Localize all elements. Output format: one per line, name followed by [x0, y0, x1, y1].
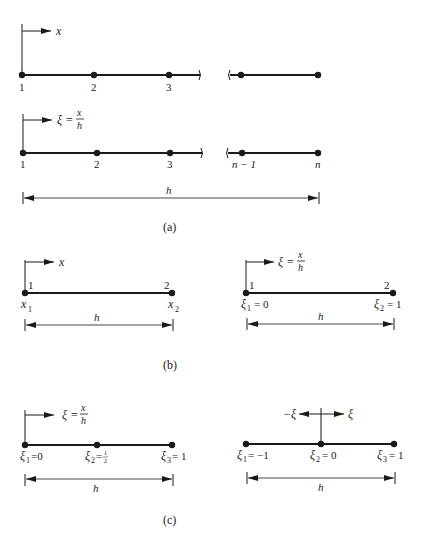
- node-label: 2: [164, 279, 170, 291]
- axis-pos-label: ξ: [348, 407, 354, 421]
- axis-neg-label: −ξ: [283, 407, 297, 421]
- node-coordinate-value: =0: [31, 450, 43, 462]
- fraction-denominator: 2: [104, 458, 107, 464]
- node-dot: [20, 150, 26, 156]
- node-coordinate-value: = 1: [172, 450, 186, 462]
- node-coordinate-sub: 1: [26, 456, 30, 465]
- node-dot: [315, 150, 321, 156]
- panel-caption-b: (b): [163, 358, 177, 372]
- fraction-denominator: h: [298, 262, 303, 273]
- node-coordinate-sub: 1: [243, 455, 247, 464]
- node-coordinate-value: =: [96, 450, 102, 462]
- node-label: 3: [166, 81, 172, 93]
- finite-element-mesh-diagram: x 1 2 3 ξ = x h 1 2 3 n − 1 n: [0, 0, 429, 538]
- node-dot: [318, 441, 324, 447]
- node-label: 2: [91, 81, 97, 93]
- fraction-numerator: x: [76, 107, 82, 118]
- fraction-denominator: h: [77, 120, 82, 131]
- node-dot: [94, 150, 100, 156]
- panel-c-right-element: −ξ ξ ξ 1 = −1 ξ 2 = 0 ξ 3 = 1 h: [237, 407, 403, 493]
- node-dot: [91, 72, 97, 78]
- dimension-label: h: [166, 184, 172, 196]
- node-coordinate-sub: 2: [91, 456, 95, 465]
- node-dot: [22, 442, 28, 448]
- node-label: 1: [20, 158, 26, 170]
- node-coordinate: x: [20, 297, 27, 311]
- node-coordinate-sub: 3: [167, 456, 171, 465]
- node-dot: [390, 290, 396, 296]
- fraction-denominator: h: [81, 415, 86, 426]
- dimension-label: h: [318, 310, 324, 322]
- panel-a-mesh-x: x 1 2 3: [19, 24, 321, 93]
- node-dot: [167, 150, 173, 156]
- dimension-label: h: [318, 481, 324, 493]
- axis-label: ξ =: [62, 408, 78, 422]
- axis-label: x: [55, 24, 62, 38]
- node-label: n: [315, 158, 321, 170]
- node-label: 1: [28, 279, 34, 291]
- fraction-numerator: x: [297, 249, 303, 260]
- node-dot: [169, 442, 175, 448]
- node-label: 2: [94, 158, 100, 170]
- node-coordinate-sub: 1: [28, 305, 32, 314]
- node-dot: [94, 442, 100, 448]
- node-coordinate-value: = 1: [387, 298, 401, 310]
- break-mark-icon: [229, 70, 231, 80]
- node-dot: [19, 72, 25, 78]
- node-coordinate-value: = 1: [389, 449, 403, 461]
- panel-c-left-element: ξ = x h ξ 1 =0 ξ 2 = 1 2 ξ 3 = 1 h: [20, 402, 186, 494]
- axis-label: ξ =: [57, 113, 73, 127]
- node-coordinate-value: = −1: [248, 449, 269, 461]
- panel-b-right-element: ξ = x h 1 2 ξ 1 = 0 ξ 2 = 1 h: [241, 249, 401, 330]
- node-label: 1: [19, 81, 25, 93]
- panel-caption-c: (c): [163, 513, 176, 527]
- break-mark-icon: [227, 148, 229, 158]
- fraction-numerator: x: [80, 402, 86, 413]
- node-dot: [243, 441, 249, 447]
- dimension-label: h: [93, 482, 99, 494]
- node-dot: [169, 290, 175, 296]
- node-coordinate-value: = 0: [322, 449, 337, 461]
- node-coordinate-sub: 2: [380, 304, 384, 313]
- panel-caption-a: (a): [163, 220, 176, 234]
- panel-a-mesh-xi: ξ = x h 1 2 3 n − 1 n h: [20, 107, 321, 204]
- node-dot: [166, 72, 172, 78]
- node-coordinate-sub: 1: [247, 304, 251, 313]
- node-label: 3: [167, 158, 173, 170]
- node-label: 1: [249, 279, 255, 291]
- node-coordinate-value: = 0: [254, 298, 269, 310]
- axis-label: x: [58, 255, 65, 269]
- node-dot: [238, 72, 244, 78]
- node-dot: [391, 441, 397, 447]
- node-dot: [239, 150, 245, 156]
- fraction-numerator: 1: [104, 450, 107, 456]
- panel-b-left-element: x 1 2 x 1 x 2 h: [20, 255, 179, 331]
- axis-label: ξ =: [278, 255, 294, 269]
- node-label: 2: [384, 279, 390, 291]
- node-coordinate-sub: 2: [316, 455, 320, 464]
- node-coordinate-sub: 2: [175, 305, 179, 314]
- dimension-label: h: [94, 311, 100, 323]
- node-label: n − 1: [232, 158, 256, 170]
- node-coordinate: x: [167, 297, 174, 311]
- node-coordinate-sub: 3: [383, 455, 387, 464]
- node-dot: [315, 72, 321, 78]
